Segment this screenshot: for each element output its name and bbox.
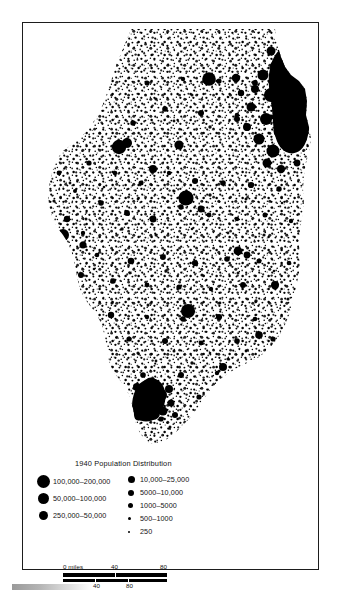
legend-dot-icon: [127, 531, 140, 533]
legend-item: 10,000–25,000: [127, 473, 189, 486]
legend-title: 1940 Population Distribution: [75, 459, 313, 468]
legend-item: 100,000–200,000: [33, 473, 123, 490]
scale-tick-label: 80: [126, 582, 133, 589]
dot-field: [23, 23, 318, 453]
legend-item-label: 100,000–200,000: [53, 477, 110, 486]
legend-item: 250,000–50,000: [33, 507, 123, 524]
scale-bar-miles-graphic: [63, 573, 167, 577]
legend-dot-icon: [33, 475, 53, 488]
legend-dot-icon: [127, 476, 140, 483]
legend-column-right: 10,000–25,000 5000–10,000 1000–5000: [127, 473, 189, 538]
legend-item: 50,000–100,000: [33, 490, 123, 507]
legend-item: 250: [127, 525, 189, 538]
map-legend: 1940 Population Distribution 100,000–200…: [33, 459, 313, 538]
legend-item-label: 500–1000: [140, 514, 173, 523]
scale-bar-miles: 0 miles 40 80: [63, 563, 183, 577]
legend-dot-icon: [33, 511, 53, 520]
scan-artifact-bar: [12, 584, 92, 590]
scale-tick-label: 40: [93, 582, 100, 589]
legend-item-label: 1000–5000: [140, 501, 177, 510]
scale-tick-label: 0 miles: [63, 563, 83, 570]
map-canvas: [23, 23, 318, 453]
map-plate: 1940 Population Distribution 100,000–200…: [22, 22, 319, 570]
legend-item-label: 10,000–25,000: [140, 475, 189, 484]
illinois-dot-density-map: [23, 23, 318, 453]
scale-bar-miles-labels: 0 miles 40 80: [63, 563, 167, 572]
legend-item-label: 250,000–50,000: [53, 511, 106, 520]
scale-tick-label: 80: [160, 563, 167, 570]
legend-item: 500–1000: [127, 512, 189, 525]
legend-item-label: 50,000–100,000: [53, 494, 106, 503]
legend-dot-icon: [127, 503, 140, 508]
legend-dot-icon: [33, 493, 53, 504]
legend-item-label: 250: [140, 527, 152, 536]
legend-columns: 100,000–200,000 50,000–100,000 250,000–5…: [33, 473, 313, 538]
scale-tick-label: 40: [111, 563, 118, 570]
legend-column-left: 100,000–200,000 50,000–100,000 250,000–5…: [33, 473, 123, 524]
legend-dot-icon: [127, 517, 140, 520]
legend-item-label: 5000–10,000: [140, 488, 183, 497]
legend-dot-icon: [127, 490, 140, 496]
legend-item: 5000–10,000: [127, 486, 189, 499]
legend-item: 1000–5000: [127, 499, 189, 512]
